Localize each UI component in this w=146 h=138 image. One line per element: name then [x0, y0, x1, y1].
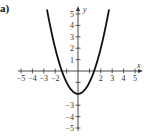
x-tick-label: 3	[110, 74, 114, 83]
parabola-chart: xy−5−4−3−2234554321−3−4−5	[0, 0, 146, 138]
x-tick-label: −4	[28, 74, 37, 83]
x-tick-label: −5	[17, 74, 26, 83]
x-axis-label: x	[136, 61, 141, 70]
axes	[18, 6, 143, 131]
x-tick-label: 4	[122, 74, 126, 83]
y-tick-label: 4	[70, 21, 74, 30]
y-axis-label: y	[82, 5, 87, 14]
x-tick-label: 2	[99, 74, 103, 83]
tick-labels: xy−5−4−3−2234554321−3−4−5	[17, 5, 141, 133]
y-tick-label: 3	[70, 33, 74, 42]
y-tick-label: −5	[65, 124, 74, 133]
y-tick-label: −4	[65, 113, 74, 122]
y-tick-label: 5	[70, 10, 74, 19]
y-tick-label: 2	[70, 44, 74, 53]
y-tick-label: −3	[65, 101, 74, 110]
x-tick-label: −2	[51, 74, 60, 83]
x-tick-label: 5	[133, 74, 137, 83]
y-tick-label: 1	[70, 56, 74, 65]
y-axis-arrow-icon	[76, 6, 80, 11]
x-tick-label: −3	[40, 74, 49, 83]
